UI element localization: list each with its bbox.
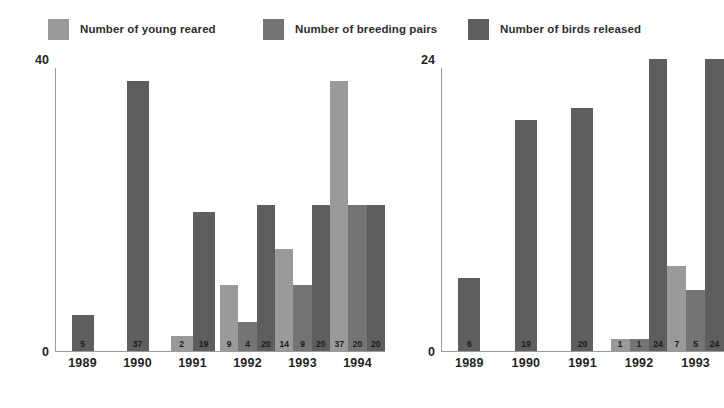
bar-group: 37 [110, 60, 165, 351]
x-tick-label: 1993 [667, 356, 724, 376]
bar[interactable]: 19 [515, 120, 537, 351]
bar-group: 9420 [220, 60, 275, 351]
bar-value-label: 20 [371, 340, 380, 351]
bar[interactable]: 24 [649, 59, 668, 351]
bar-value-label: 19 [199, 340, 208, 351]
bar[interactable]: 37 [330, 81, 348, 351]
bar[interactable]: 5 [72, 315, 94, 352]
bar-value-label: 24 [710, 340, 719, 351]
bar[interactable]: 20 [312, 205, 330, 351]
bar-group: 19 [498, 60, 555, 351]
x-tick-label: 1990 [498, 356, 555, 376]
x-tick-label: 1992 [220, 356, 275, 376]
bar[interactable]: 14 [275, 249, 293, 351]
x-tick-label: 1992 [611, 356, 668, 376]
bar[interactable]: 20 [348, 205, 366, 351]
legend-swatch-breeding-pairs [263, 19, 284, 40]
bar[interactable]: 1 [611, 339, 630, 351]
bar[interactable]: 7 [667, 266, 686, 351]
bar-value-label: 20 [261, 340, 270, 351]
bar-value-label: 4 [245, 340, 250, 351]
bar-value-label: 7 [674, 340, 679, 351]
bar[interactable]: 6 [458, 278, 480, 351]
chart-panel-left: 537219942014920372020 040 19891990199119… [0, 60, 400, 390]
bar-value-label: 1 [618, 340, 623, 351]
bar-group: 219 [165, 60, 220, 351]
chart-panel-right: 6192011247524 024 19891990199119921993 [400, 60, 724, 390]
bar-value-label: 5 [80, 340, 85, 351]
bar[interactable]: 2 [171, 336, 193, 351]
x-tick-label: 1991 [165, 356, 220, 376]
legend-item-breeding-pairs: Number of breeding pairs [263, 18, 437, 40]
y-tick-label: 40 [9, 53, 49, 67]
bar-group: 7524 [667, 60, 724, 351]
legend-label-birds-released: Number of birds released [500, 23, 641, 35]
bar[interactable]: 19 [193, 212, 215, 351]
bar-value-label: 5 [693, 340, 698, 351]
bar-value-label: 6 [467, 340, 472, 351]
bar-value-label: 20 [578, 340, 587, 351]
bar[interactable]: 1 [630, 339, 649, 351]
bar[interactable]: 20 [257, 205, 275, 351]
bar-value-label: 24 [653, 340, 662, 351]
bar-group: 20 [554, 60, 611, 351]
x-tick-label: 1993 [275, 356, 330, 376]
x-tick-label: 1989 [55, 356, 110, 376]
legend-swatch-birds-released [468, 19, 489, 40]
bar-value-label: 14 [279, 340, 288, 351]
legend-item-birds-released: Number of birds released [468, 18, 641, 40]
legend-swatch-young-reared [48, 19, 69, 40]
bar[interactable]: 9 [220, 285, 238, 351]
bar-value-label: 19 [521, 340, 530, 351]
bar[interactable]: 24 [705, 59, 724, 351]
x-tick-label: 1991 [554, 356, 611, 376]
legend-label-breeding-pairs: Number of breeding pairs [295, 23, 437, 35]
bar-group: 14920 [275, 60, 330, 351]
y-tick-label: 0 [9, 345, 49, 359]
bar-group: 372020 [330, 60, 385, 351]
bar-value-label: 37 [133, 340, 142, 351]
x-tick-labels-right: 19891990199119921993 [441, 356, 724, 376]
caption-left [38, 382, 368, 390]
x-tick-label: 1989 [441, 356, 498, 376]
bar[interactable]: 20 [571, 108, 593, 351]
y-tick-label: 0 [395, 345, 435, 359]
x-tick-label: 1990 [110, 356, 165, 376]
legend-label-young-reared: Number of young reared [80, 23, 216, 35]
bar[interactable]: 37 [127, 81, 149, 351]
bar-value-label: 37 [334, 340, 343, 351]
bar[interactable]: 9 [293, 285, 311, 351]
y-tick-label: 24 [395, 53, 435, 67]
bar-value-label: 2 [179, 340, 184, 351]
bar-value-label: 20 [353, 340, 362, 351]
x-tick-labels-left: 198919901991199219931994 [55, 356, 385, 376]
legend-item-young-reared: Number of young reared [48, 18, 216, 40]
x-axis-right [441, 351, 724, 352]
bar-group: 5 [55, 60, 110, 351]
x-tick-label: 1994 [330, 356, 385, 376]
chart-legend: Number of young reared Number of breedin… [0, 18, 724, 48]
bar[interactable]: 5 [686, 290, 705, 351]
plot-area-left: 537219942014920372020 040 [0, 60, 400, 352]
bar[interactable]: 4 [238, 322, 256, 351]
bar-group: 1124 [611, 60, 668, 351]
bar-groups-right: 6192011247524 [441, 60, 724, 351]
bar[interactable]: 20 [367, 205, 385, 351]
plot-area-right: 6192011247524 024 [400, 60, 724, 352]
x-axis-left [55, 351, 385, 352]
bar-group: 6 [441, 60, 498, 351]
bar-value-label: 1 [637, 340, 642, 351]
bar-groups-left: 537219942014920372020 [55, 60, 385, 351]
bar-value-label: 20 [316, 340, 325, 351]
bar-value-label: 9 [227, 340, 232, 351]
bar-value-label: 9 [300, 340, 305, 351]
